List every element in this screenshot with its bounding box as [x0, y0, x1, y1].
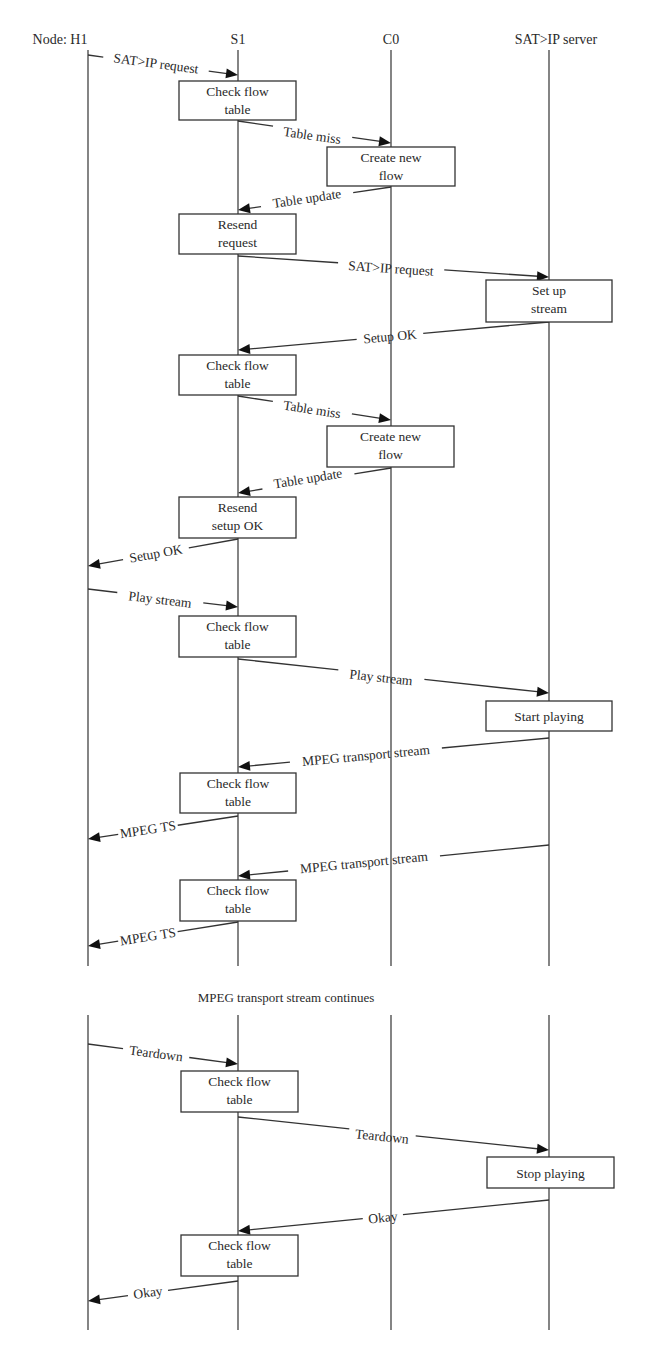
message-label: Setup OK [363, 327, 418, 347]
message-label: Table update [273, 466, 344, 492]
process-box-label: Create new [360, 150, 421, 165]
message-arrow: Table miss [238, 121, 391, 147]
process-box-label: table [224, 102, 250, 117]
continuation-note: MPEG transport stream continues [198, 990, 375, 1005]
process-box-label: table [224, 637, 250, 652]
process-box: Check flowtable [181, 1071, 298, 1112]
messages: SAT>IP requestTable missTable updateSAT>… [88, 50, 549, 1304]
message-arrow: Play stream [88, 588, 238, 610]
process-box: Check flowtable [180, 773, 296, 813]
message-label: Teardown [355, 1126, 410, 1147]
node-label-s1: S1 [231, 32, 246, 47]
process-box-label: table [224, 376, 250, 391]
process-box: Check flowtable [179, 355, 296, 395]
process-box-label: Check flow [206, 358, 269, 373]
sequence-diagram: Node: H1S1C0SAT>IP server SAT>IP request… [0, 0, 653, 1357]
message-label: Setup OK [128, 541, 184, 565]
arrowhead-icon [225, 68, 238, 78]
message-label: SAT>IP request [113, 50, 200, 76]
message-label: MPEG transport stream [299, 849, 429, 877]
arrowhead-icon [225, 1057, 238, 1067]
message-arrow: Setup OK [238, 322, 549, 354]
node-label-srv: SAT>IP server [515, 32, 598, 47]
message-label: Play stream [349, 667, 414, 689]
node-label-c0: C0 [383, 32, 399, 47]
process-box: Create newflow [327, 147, 455, 186]
process-box-label: Check flow [208, 1238, 271, 1253]
process-box: Check flowtable [179, 81, 296, 120]
process-box: Resendrequest [179, 214, 296, 254]
arrowhead-icon [88, 1294, 101, 1304]
process-box-label: Resend [218, 500, 258, 515]
process-box-label: Check flow [208, 1074, 271, 1089]
process-box-label: setup OK [212, 518, 264, 533]
process-box-label: Check flow [206, 84, 269, 99]
arrowhead-icon [88, 559, 101, 569]
process-box-label: table [225, 794, 251, 809]
process-box: Create newflow [327, 426, 454, 467]
arrowhead-icon [238, 203, 251, 213]
arrowhead-icon [238, 1225, 250, 1235]
process-box-label: stream [531, 301, 567, 316]
process-box: Set upstream [486, 280, 612, 322]
message-arrow: MPEG transport stream [238, 845, 549, 880]
message-label: Table miss [282, 398, 342, 422]
arrowhead-icon [88, 939, 101, 949]
message-arrow: Table update [238, 466, 391, 496]
process-box: Check flowtable [181, 1235, 298, 1276]
process-box: Start playing [486, 701, 612, 731]
process-box-label: Resend [218, 217, 258, 232]
message-arrow: Setup OK [88, 539, 238, 569]
arrowhead-icon [378, 413, 391, 423]
message-label: Teardown [128, 1043, 184, 1065]
process-box-label: Create new [360, 429, 421, 444]
message-label: Table miss [282, 124, 341, 147]
process-box-label: Check flow [207, 776, 270, 791]
arrowhead-icon [88, 832, 101, 842]
message-arrow: Table update [238, 186, 391, 213]
lifelines [88, 50, 549, 1330]
message-arrow: Teardown [88, 1043, 238, 1068]
process-box-label: Check flow [207, 883, 270, 898]
message-arrow: Okay [88, 1281, 238, 1304]
process-box: Resendsetup OK [179, 497, 296, 538]
process-box-label: Check flow [206, 619, 269, 634]
message-arrow: SAT>IP request [238, 256, 549, 281]
node-label-h1: Node: H1 [33, 32, 88, 47]
message-label: Okay [368, 1209, 399, 1227]
arrowhead-icon [225, 601, 238, 611]
process-box-label: request [218, 235, 257, 250]
message-label: Table update [272, 186, 343, 211]
message-arrow: MPEG TS [88, 922, 238, 949]
message-label: MPEG TS [119, 818, 177, 841]
message-arrow: MPEG TS [88, 816, 238, 842]
message-arrow: Okay [238, 1200, 549, 1235]
process-box: Check flowtable [179, 616, 296, 657]
arrowhead-icon [238, 761, 250, 771]
process-box: Stop playing [487, 1157, 614, 1188]
arrowhead-icon [238, 486, 251, 496]
message-label: Play stream [128, 588, 193, 610]
arrowhead-icon [238, 344, 250, 354]
process-box: Check flowtable [180, 880, 296, 921]
process-box-label: table [226, 1256, 252, 1271]
message-arrow: Play stream [238, 659, 549, 697]
message-arrow: Table miss [238, 396, 391, 423]
arrowhead-icon [378, 136, 391, 146]
message-label: Okay [132, 1283, 163, 1302]
process-box-label: Stop playing [516, 1166, 585, 1181]
process-box-label: table [226, 1092, 252, 1107]
process-box-label: flow [379, 168, 404, 183]
message-label: MPEG TS [119, 925, 177, 949]
arrowhead-icon [537, 687, 549, 697]
arrowhead-icon [238, 870, 250, 880]
process-box-label: flow [378, 447, 403, 462]
node-labels: Node: H1S1C0SAT>IP server [33, 32, 598, 47]
message-arrow: Teardown [238, 1117, 549, 1154]
process-box-label: table [225, 901, 251, 916]
message-label: MPEG transport stream [301, 742, 431, 769]
message-arrow: MPEG transport stream [238, 738, 549, 771]
message-label: SAT>IP request [348, 258, 435, 279]
process-box-label: Set up [532, 283, 566, 298]
arrowhead-icon [537, 1144, 549, 1154]
